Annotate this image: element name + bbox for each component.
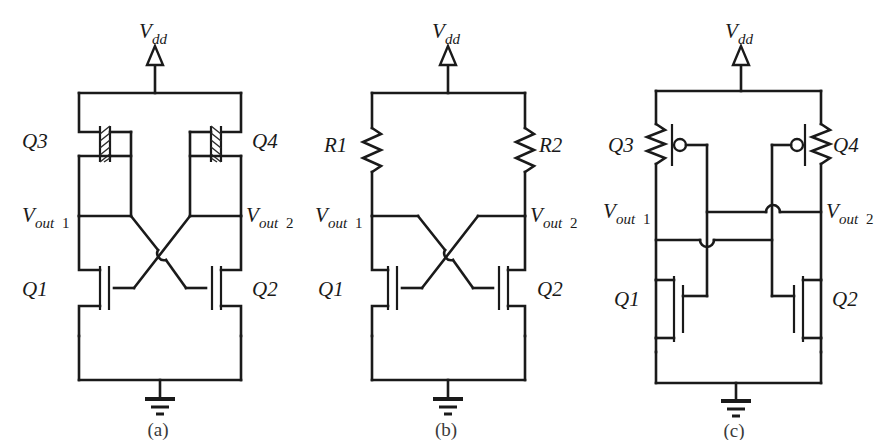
q3-label: Q3 — [22, 129, 48, 153]
schematic-b: V dd R1 R2 V out — [296, 0, 596, 440]
cross-wire-left-upper — [131, 216, 158, 250]
schematic-a: V dd — [0, 0, 300, 440]
q2-drain-wire — [508, 216, 525, 270]
ground-symbol-b — [433, 380, 463, 414]
q2-label: Q2 — [832, 287, 858, 311]
vout1-node-b: V out 1 — [315, 203, 418, 231]
r2-zigzag — [516, 128, 534, 172]
caption-c: (c) — [723, 420, 744, 440]
cross-wire-upper-c — [707, 205, 821, 212]
vdd-supply-c: V dd — [725, 19, 754, 91]
vdd-label-sub: dd — [152, 31, 168, 47]
q1-drain-wire — [79, 216, 100, 270]
q3-inversion-bubble-icon — [674, 139, 686, 151]
vdd-supply-b: V dd — [432, 19, 461, 93]
vdd-label-sub: dd — [445, 31, 461, 47]
q1-label: Q1 — [22, 277, 48, 301]
q4-label: Q4 — [252, 129, 278, 153]
vout2-label-group-c: V out 2 — [826, 199, 874, 227]
circuit-panel-b: V dd R1 R2 V out — [296, 0, 596, 440]
vdd-arrow-icon — [440, 46, 456, 65]
q2-source-wire — [508, 306, 525, 336]
vout2-label-num: 2 — [286, 215, 294, 231]
vout1-node-a: V out 1 — [22, 203, 131, 231]
vout2-label-sub: out — [543, 215, 563, 231]
cross-wire-left-lower — [453, 260, 473, 288]
transistor-q1: Q1 — [318, 216, 397, 336]
vout1-label-num: 1 — [355, 215, 363, 231]
vout1-label-group-c: V out 1 — [603, 199, 651, 227]
ground-symbol-c — [721, 383, 751, 416]
q3-label: Q3 — [608, 133, 634, 157]
vout1-label-sub: out — [616, 211, 636, 227]
cross-wire-lower-c — [656, 240, 772, 247]
cross-coupling-a — [114, 216, 206, 288]
vdd-label-sub: dd — [738, 31, 754, 47]
transistor-q1: Q1 — [614, 276, 707, 342]
vdd-arrow-icon — [147, 46, 163, 65]
q2-label: Q2 — [252, 277, 278, 301]
wire-rail-to-q4-drain — [221, 93, 241, 132]
cross-wire-left-lower — [166, 260, 186, 288]
q4-zigzag — [812, 124, 830, 164]
transistor-q4: Q4 — [772, 91, 859, 296]
transistor-q3: Q3 — [22, 126, 131, 216]
transistor-q4: Q4 — [190, 126, 278, 216]
q1-label: Q1 — [614, 287, 640, 311]
r2-label: R2 — [538, 133, 563, 157]
vout2-node-b: V out 2 — [478, 203, 578, 231]
resistor-r2: R2 — [516, 93, 563, 216]
transistor-q2: Q2 — [499, 216, 563, 336]
circuit-panel-a: V dd — [0, 0, 300, 440]
circuit-panel-c: V dd Q3 — [594, 0, 894, 440]
vout1-label-num: 1 — [643, 211, 651, 227]
caption-a: (a) — [147, 419, 168, 440]
vout1-label-sub: out — [328, 215, 348, 231]
vout2-label-sub: out — [839, 211, 859, 227]
ground-symbol-a — [145, 380, 175, 414]
caption-b: (b) — [435, 419, 457, 440]
r1-zigzag — [363, 128, 381, 172]
wire-rail-to-q3-drain — [79, 93, 100, 132]
transistor-q1: Q1 — [22, 216, 109, 336]
vdd-supply-a: V dd — [139, 19, 168, 93]
transistor-q3: Q3 — [608, 91, 707, 296]
cross-wire-left-upper — [418, 216, 445, 250]
cross-wire-right — [134, 216, 190, 288]
cross-wire-right — [422, 216, 478, 288]
q3-zigzag — [647, 124, 665, 164]
q4-label: Q4 — [833, 133, 859, 157]
cross-coupling-b — [402, 216, 493, 288]
resistor-r1: R1 — [323, 93, 381, 216]
q1-label: Q1 — [318, 277, 344, 301]
vout2-label-num: 2 — [866, 211, 874, 227]
circuit-figure: V dd — [0, 0, 894, 440]
r1-label: R1 — [323, 133, 347, 157]
vout1-label-num: 1 — [62, 215, 70, 231]
vout1-label-sub: out — [35, 215, 55, 231]
q1-drain-wire — [372, 216, 388, 270]
transistor-q2: Q2 — [772, 276, 858, 342]
vout2-label-num: 2 — [570, 215, 578, 231]
vdd-arrow-icon — [733, 46, 749, 65]
transistor-q2: Q2 — [212, 216, 278, 336]
vout2-label-sub: out — [259, 215, 279, 231]
q1-source-wire — [372, 306, 388, 336]
q4-inversion-bubble-icon — [791, 139, 803, 151]
q2-label: Q2 — [537, 277, 563, 301]
q2-drain-wire — [221, 216, 241, 270]
schematic-c: V dd Q3 — [594, 0, 894, 440]
q1-source-wire — [79, 306, 100, 336]
q2-source-wire — [221, 306, 241, 336]
